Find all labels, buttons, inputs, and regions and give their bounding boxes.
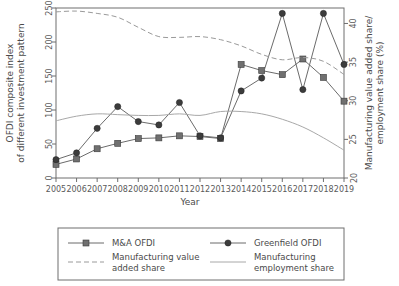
data-point-marker	[156, 122, 162, 128]
data-point-marker	[300, 56, 306, 62]
y2-axis-tick-label: 20	[350, 173, 359, 183]
data-point-marker	[238, 61, 244, 67]
x-axis-tick-label: 2010	[149, 185, 169, 194]
data-point-marker	[74, 156, 80, 162]
legend-label: employment share	[254, 263, 334, 273]
data-point-marker	[320, 74, 326, 80]
y-axis-tick-label: 100	[45, 102, 54, 117]
legend-label: Manufacturing value	[112, 252, 199, 262]
x-axis-tick-label: 2014	[231, 185, 251, 194]
x-axis-tick-label: 2019	[334, 185, 354, 194]
y2-axis-tick-label: 25	[350, 134, 359, 144]
data-point-marker	[279, 72, 285, 78]
y-axis-tick-label: 50	[45, 139, 54, 149]
legend-swatch-marker	[83, 240, 89, 246]
data-point-marker	[135, 118, 141, 124]
x-axis-tick-label: 2016	[272, 185, 292, 194]
chart-canvas: 0501001502002502025303540200520062007200…	[0, 0, 399, 286]
legend-label: added share	[112, 263, 165, 273]
data-point-marker	[156, 135, 162, 141]
legend-item-manufacturing-employment-share[interactable]: Manufacturingemployment share	[210, 252, 334, 273]
plot-frame	[56, 8, 344, 178]
x-axis-tick-label: 2018	[313, 185, 333, 194]
y2-axis-tick-label: 30	[350, 96, 359, 106]
x-axis-tick-label: 2007	[87, 185, 107, 194]
x-axis-tick-label: 2012	[190, 185, 210, 194]
x-axis-tick-label: 2009	[128, 185, 148, 194]
y2-axis-title: Manufacturing value added share/	[364, 15, 374, 170]
data-point-marker	[238, 88, 244, 94]
y-axis-title: of different investment pattern	[16, 23, 26, 162]
x-axis-tick-label: 2006	[66, 185, 86, 194]
data-point-marker	[259, 75, 265, 81]
y-axis-tick-label: 150	[45, 68, 54, 83]
x-axis-tick-label: 2011	[169, 185, 189, 194]
data-point-marker	[341, 61, 347, 67]
y2-axis-tick-label: 40	[350, 18, 359, 28]
y-axis-title: OFDI composite index	[5, 43, 15, 143]
x-axis-tick-label: 2008	[108, 185, 128, 194]
y2-axis-tick-label: 35	[350, 57, 359, 67]
data-point-marker	[300, 87, 306, 93]
data-point-marker	[176, 99, 182, 105]
data-point-marker	[53, 157, 59, 163]
data-point-marker	[115, 140, 121, 146]
data-point-marker	[279, 10, 285, 16]
data-point-marker	[197, 133, 203, 139]
legend-label: Manufacturing	[254, 252, 316, 262]
legend-label: Greenfield OFDI	[254, 238, 321, 248]
data-point-marker	[94, 146, 100, 152]
legend-item-greenfield-ofdi[interactable]: Greenfield OFDI	[210, 238, 321, 248]
x-axis-title: Year	[179, 197, 199, 207]
y-axis-tick-label: 200	[45, 34, 54, 49]
data-point-marker	[217, 135, 223, 141]
legend-label: M&A OFDI	[112, 238, 155, 248]
legend-item-m-a-ofdi[interactable]: M&A OFDI	[68, 238, 155, 248]
data-point-marker	[115, 104, 121, 110]
y-axis-tick-label: 0	[45, 175, 54, 180]
x-axis-tick-label: 2005	[46, 185, 66, 194]
series-line-2	[56, 11, 344, 74]
data-point-marker	[94, 125, 100, 131]
legend-item-manufacturing-value-added-share[interactable]: Manufacturing valueadded share	[68, 252, 199, 273]
y-axis-tick-label: 250	[45, 0, 54, 15]
data-point-marker	[341, 98, 347, 104]
data-point-marker	[320, 10, 326, 16]
data-point-marker	[135, 136, 141, 142]
data-point-marker	[73, 150, 79, 156]
x-axis-tick-label: 2013	[210, 185, 230, 194]
chart-figure: 0501001502002502025303540200520062007200…	[0, 0, 399, 286]
y2-axis-title: employment share (%)	[375, 41, 385, 144]
data-point-marker	[176, 133, 182, 139]
x-axis-tick-label: 2017	[293, 185, 313, 194]
x-axis-tick-label: 2015	[252, 185, 272, 194]
legend-swatch-marker	[225, 240, 231, 246]
